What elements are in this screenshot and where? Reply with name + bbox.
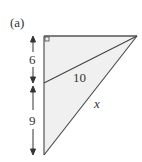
triangle-diagram: (a) 6 9 10 x — [0, 0, 142, 162]
segment-label-x: x — [93, 96, 100, 111]
segment-label-9: 9 — [29, 113, 36, 128]
figure-label: (a) — [10, 15, 24, 30]
segment-label-6: 6 — [29, 52, 36, 67]
segment-label-10: 10 — [73, 70, 86, 85]
